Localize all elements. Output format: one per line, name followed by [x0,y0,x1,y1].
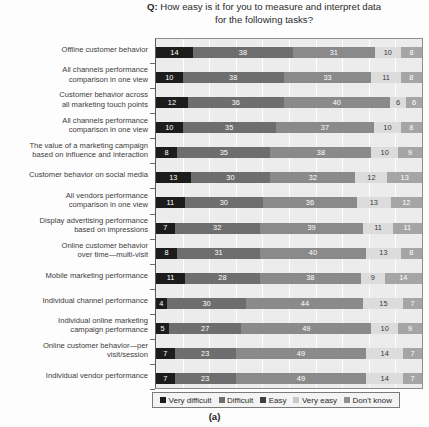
bar-segment-very-easy: 13 [366,248,401,259]
bar-segment-difficult: 35 [177,147,270,158]
category-label: Online customer behavior—pervisit/sessio… [0,341,148,359]
axis-tick [150,63,155,64]
legend-item-difficult[interactable]: Difficult [219,396,254,405]
bar-segment-easy: 37 [276,122,374,133]
category-label: Display advertising performancebased on … [0,216,148,234]
bar-segment-easy: 32 [270,172,355,183]
legend-item-easy[interactable]: Easy [260,396,286,405]
category-label: Online customer behaviorover time—multi-… [0,241,148,259]
plot-area: 1438311081038331181236406610353710883538… [155,38,423,389]
category-label: Mobile marketing performance [0,271,148,280]
category-label-line: visit/session [0,350,148,359]
legend-swatch-icon [344,397,350,403]
category-label-line: Offline customer behavior [0,45,148,54]
bar-segment-very-difficult: 8 [156,147,177,158]
table-row: 83140138 [156,248,422,259]
bar-segment-easy: 38 [270,147,371,158]
bar-segment-very-difficult: 5 [156,323,169,334]
bar-segment-difficult: 32 [175,223,260,234]
bar-segment-difficult: 23 [175,373,236,384]
bar-segment-difficult: 30 [185,197,263,208]
bar-segment-don-t-know: 12 [391,197,422,208]
table-row: 112838914 [156,273,422,284]
category-label-line: comparison in one view [0,75,148,84]
legend-swatch-icon [219,397,225,403]
bar-segment-difficult: 28 [185,273,259,284]
stacked-bars: 1438311081038331181236406610353710883538… [156,39,422,388]
category-label: All channels performancecomparison in on… [0,116,148,134]
bar-segment-difficult: 30 [167,298,247,309]
category-label-line: based on influence and interaction [0,150,148,159]
bar-segment-don-t-know: 11 [393,223,422,234]
category-label-line: All channels performance [0,65,148,74]
category-axis-ticks [150,38,156,389]
axis-tick [150,163,155,164]
axis-tick [150,188,155,189]
category-label: Customer behavior acrossall marketing to… [0,90,148,108]
bar-segment-very-easy: 12 [355,172,387,183]
category-label: All vendors performancecomparison in one… [0,191,148,209]
table-row: 72349147 [156,373,422,384]
axis-tick [150,264,155,265]
category-label-line: All vendors performance [0,191,148,200]
bar-segment-very-difficult: 11 [156,197,185,208]
axis-tick [150,339,155,340]
axis-tick [150,314,155,315]
category-label-line: comparison in one view [0,125,148,134]
bar-segment-very-easy: 15 [363,298,403,309]
chart-title: Q: How easy is it for you to measure and… [104,1,424,26]
bar-segment-very-easy: 10 [374,122,401,133]
legend-label: Don't know [353,396,392,405]
bar-segment-very-easy: 6 [390,97,406,108]
bar-segment-very-easy: 9 [361,273,385,284]
bar-segment-easy: 31 [293,47,375,58]
legend-item-very-easy[interactable]: Very easy [293,396,337,405]
bar-segment-very-difficult: 7 [156,373,175,384]
bar-segment-difficult: 38 [183,72,284,83]
bar-segment-difficult: 36 [188,97,284,108]
category-label: The value of a marketing campaignbased o… [0,141,148,159]
category-label-line: based on impressions [0,225,148,234]
table-row: 83538109 [156,147,422,158]
axis-tick [150,214,155,215]
legend-item-very-difficult[interactable]: Very difficult [160,396,211,405]
bar-segment-difficult: 27 [169,323,241,334]
bar-segment-very-difficult: 7 [156,348,175,359]
bar-segment-very-difficult: 12 [156,97,188,108]
category-label-line: The value of a marketing campaign [0,141,148,150]
category-label: Customer behavior on social media [0,170,148,179]
legend-item-don-t-know[interactable]: Don't know [344,396,392,405]
legend-label: Difficult [227,396,253,405]
bar-segment-very-easy: 14 [366,373,403,384]
bar-segment-don-t-know: 9 [398,323,422,334]
category-label: Individual online marketingcampaign perf… [0,316,148,334]
axis-tick [150,138,155,139]
bar-segment-don-t-know: 8 [401,248,422,259]
category-label: Individual vendor performance [0,371,148,380]
category-label-line: comparison in one view [0,200,148,209]
bar-segment-don-t-know: 13 [387,172,422,183]
category-label-line: Customer behavior across [0,90,148,99]
bar-segment-very-difficult: 4 [156,298,167,309]
bar-segment-difficult: 35 [183,122,276,133]
bar-segment-very-difficult: 10 [156,72,183,83]
category-label-line: Individual vendor performance [0,371,148,380]
axis-tick [150,364,155,365]
chart-legend: Very difficultDifficultEasyVery easyDon'… [152,392,400,408]
bar-segment-very-difficult: 14 [156,47,193,58]
bar-segment-very-difficult: 11 [156,273,185,284]
table-row: 103537108 [156,122,422,133]
axis-tick [150,389,155,390]
bar-segment-easy: 39 [260,223,364,234]
category-label-line: Mobile marketing performance [0,271,148,280]
legend-swatch-icon [293,397,299,403]
legend-label: Easy [269,396,287,405]
bar-segment-very-easy: 10 [371,323,398,334]
bar-segment-easy: 36 [263,197,357,208]
bar-segment-very-easy: 10 [375,47,401,58]
bar-segment-very-easy: 14 [366,348,403,359]
bar-segment-easy: 49 [236,348,366,359]
bar-segment-don-t-know: 8 [401,72,422,83]
bar-segment-difficult: 31 [177,248,259,259]
chart-title-prefix: Q: [147,1,158,12]
